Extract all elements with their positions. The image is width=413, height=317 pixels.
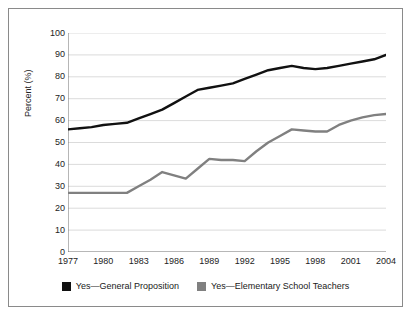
legend-label: Yes—Elementary School Teachers xyxy=(211,281,349,291)
y-tick-label: 90 xyxy=(39,50,65,59)
legend-elementary-school-teachers[interactable]: Yes—Elementary School Teachers xyxy=(197,281,349,291)
y-tick-label: 80 xyxy=(39,72,65,81)
legend-swatch-icon xyxy=(62,282,71,291)
x-tick-label: 1980 xyxy=(93,257,113,266)
series-line xyxy=(68,114,386,193)
x-tick-label: 2001 xyxy=(341,257,361,266)
legend-general-proposition[interactable]: Yes—General Proposition xyxy=(62,281,179,291)
x-tick-label: 1977 xyxy=(58,257,78,266)
plot-area xyxy=(68,33,386,252)
x-axis-tick-labels: 1977198019831986198919921995199820012004 xyxy=(68,257,386,271)
y-tick-label: 70 xyxy=(39,94,65,103)
y-tick-label: 30 xyxy=(39,182,65,191)
series-line xyxy=(68,55,386,129)
y-tick-label: 60 xyxy=(39,116,65,125)
series-lines xyxy=(68,33,386,252)
y-axis-tick-labels: 1009080706050403020100 xyxy=(35,33,65,252)
x-tick-label: 1989 xyxy=(199,257,219,266)
x-tick-label: 1998 xyxy=(305,257,325,266)
x-tick-label: 1995 xyxy=(270,257,290,266)
y-tick-label: 40 xyxy=(39,160,65,169)
y-axis-title: Percent (%) xyxy=(23,69,33,117)
x-tick-label: 1983 xyxy=(129,257,149,266)
y-tick-label: 20 xyxy=(39,204,65,213)
legend-swatch-icon xyxy=(197,282,206,291)
chart-figure: Percent (%) 1009080706050403020100 19771… xyxy=(8,8,403,307)
x-tick-label: 1986 xyxy=(164,257,184,266)
y-tick-label: 50 xyxy=(39,138,65,147)
x-tick-label: 1992 xyxy=(235,257,255,266)
y-tick-label: 10 xyxy=(39,226,65,235)
x-tick-label: 2004 xyxy=(376,257,396,266)
y-tick-label: 100 xyxy=(39,29,65,38)
legend-label: Yes—General Proposition xyxy=(76,281,179,291)
chart-legend: Yes—General PropositionYes—Elementary Sc… xyxy=(9,281,402,291)
